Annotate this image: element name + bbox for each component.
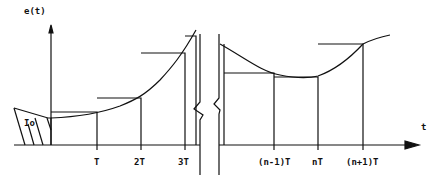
- signal-curve-left: [51, 30, 196, 118]
- tick-label-n-1T: (n-1)T: [258, 157, 291, 167]
- x-axis-label: t: [421, 122, 426, 132]
- x-axis-arrow-icon: [405, 141, 419, 149]
- tick-label-T: T: [94, 157, 99, 167]
- axis-break-left: [194, 34, 203, 175]
- hold-step-0: [51, 112, 97, 145]
- hold-step-n-2: [224, 73, 274, 145]
- tick-label-n+1T: (n+1)T: [346, 157, 379, 167]
- initial-condition-label: Io: [24, 118, 35, 128]
- tick-label-nT: nT: [312, 157, 323, 167]
- hold-step-n-1: [274, 77, 318, 145]
- hold-step-2: [141, 53, 185, 145]
- hold-step-n: [318, 44, 363, 145]
- axis-break-right: [214, 34, 220, 175]
- diagram-canvas: e(t) Io T 2T 3T (n-1)T nT (n+1)T t: [0, 0, 438, 185]
- hold-step-3: [185, 36, 196, 145]
- hold-step-1: [97, 98, 141, 145]
- tick-label-2T: 2T: [134, 157, 145, 167]
- tick-label-3T: 3T: [178, 157, 189, 167]
- y-axis-label: e(t): [24, 6, 46, 16]
- signal-curve-right: [220, 35, 390, 77]
- y-axis-arrow-icon: [49, 25, 53, 33]
